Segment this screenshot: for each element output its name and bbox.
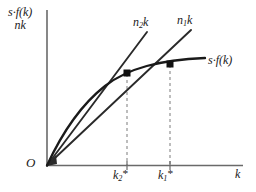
origin-label: O bbox=[26, 156, 35, 170]
n2k-tail: k bbox=[143, 15, 148, 29]
n1k-tail: k bbox=[187, 13, 192, 27]
x-axis-label: k bbox=[235, 168, 240, 181]
curve-label-n1k: n1k bbox=[177, 14, 192, 29]
marker-k2star bbox=[124, 70, 131, 77]
marker-k1star bbox=[167, 61, 174, 68]
curve-label-n2k: n2k bbox=[133, 16, 148, 31]
x-tick-label-k2star: k2* bbox=[113, 168, 128, 183]
curve-n2k bbox=[47, 32, 147, 166]
growth-model-plot bbox=[0, 0, 256, 192]
k2-star: * bbox=[122, 167, 128, 179]
y-axis-label-line2: nk bbox=[8, 19, 32, 32]
k1-star: * bbox=[167, 167, 173, 179]
figure-canvas: s·f(k) nk n2k n1k s·f(k) O k2* k1* k bbox=[0, 0, 256, 192]
y-axis-label: s·f(k) nk bbox=[8, 6, 32, 31]
y-axis-label-line1: s·f(k) bbox=[8, 5, 32, 19]
curve-label-sfk: s·f(k) bbox=[208, 54, 232, 67]
x-tick-label-k1star: k1* bbox=[158, 168, 173, 183]
